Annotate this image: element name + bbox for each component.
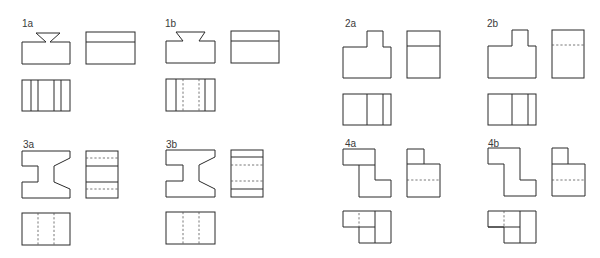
top-view-1b xyxy=(166,79,215,111)
side-view-1b xyxy=(231,31,279,63)
side-view-1a xyxy=(86,32,135,64)
panel-label-2b: 2b xyxy=(487,18,499,29)
panel-label-2a: 2a xyxy=(345,18,357,29)
panel-label-1b: 1b xyxy=(165,18,177,29)
panel-2a: 2a xyxy=(343,18,440,125)
front-view-1a xyxy=(22,33,70,64)
panel-4b: 4b xyxy=(488,138,585,243)
side-view-3b xyxy=(231,150,263,197)
top-view-4a xyxy=(343,211,391,243)
front-view-2b xyxy=(488,30,536,78)
panel-1a: 1a xyxy=(22,18,135,111)
side-view-4a xyxy=(407,149,440,197)
top-view-3a xyxy=(22,213,70,245)
panel-label-4b: 4b xyxy=(488,138,500,149)
panel-3a: 3a xyxy=(22,139,118,245)
panel-label-1a: 1a xyxy=(22,18,34,29)
front-view-4a xyxy=(343,149,391,197)
front-view-4b xyxy=(488,148,536,196)
panel-3b: 3b xyxy=(166,139,263,244)
top-view-4b xyxy=(488,211,536,243)
side-view-2a xyxy=(407,31,440,78)
front-view-3b xyxy=(166,150,215,197)
front-view-2a xyxy=(343,31,391,78)
side-view-3a xyxy=(86,151,118,198)
panel-label-4a: 4a xyxy=(345,138,357,149)
panel-1b: 1b xyxy=(165,18,279,111)
panel-2b: 2b xyxy=(487,18,584,125)
top-view-3b xyxy=(166,212,215,244)
side-view-2b xyxy=(552,30,584,78)
top-view-1a xyxy=(22,80,70,111)
top-view-2b xyxy=(488,94,536,125)
front-view-1b xyxy=(166,32,215,63)
side-view-4b xyxy=(552,148,585,196)
panel-label-3a: 3a xyxy=(23,139,35,150)
projection-diagram: 1a 1b 2a xyxy=(0,0,600,258)
top-view-2a xyxy=(343,94,391,125)
panel-4a: 4a xyxy=(343,138,440,243)
front-view-3a xyxy=(22,151,70,198)
panel-label-3b: 3b xyxy=(166,139,178,150)
